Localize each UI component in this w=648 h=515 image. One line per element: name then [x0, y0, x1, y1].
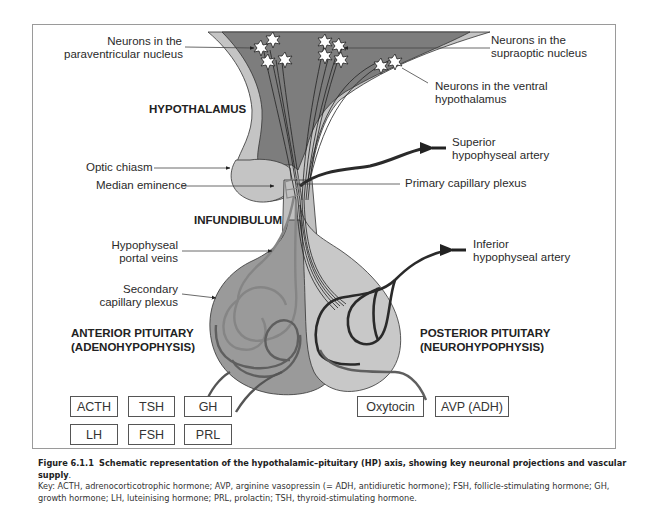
hormone-box-acth: ACTH — [70, 396, 118, 417]
label-ventral: Neurons in the ventral hypothalamus — [435, 80, 548, 106]
figure-caption: Figure 6.1.1 Schematic representation of… — [38, 458, 638, 504]
label-inferior-artery-line2: hypophyseal artery — [473, 251, 570, 264]
caption-key: Key: ACTH, adrenocorticotrophic hormone;… — [38, 481, 638, 504]
optic-chiasm — [231, 159, 292, 202]
label-ventral-line1: Neurons in the ventral — [435, 80, 548, 93]
label-secondary-plexus: Secondary capillary plexus — [80, 283, 178, 309]
label-superior-artery-line1: Superior — [452, 136, 549, 149]
label-supraoptic-line1: Neurons in the — [491, 34, 587, 47]
region-infundibulum: INFUNDIBULUM — [194, 213, 282, 227]
region-anterior-line1: ANTERIOR PITUITARY — [71, 326, 195, 340]
label-portal-veins-line1: Hypophyseal — [80, 239, 178, 252]
region-posterior-line2: (NEUROHYPOPHYSIS) — [420, 340, 550, 354]
label-secondary-plexus-line2: capillary plexus — [80, 296, 178, 309]
label-secondary-plexus-line1: Secondary — [80, 283, 178, 296]
region-hypothalamus: HYPOTHALAMUS — [149, 102, 246, 116]
label-paraventricular-line2: paraventricular nucleus — [64, 48, 182, 61]
region-posterior-pituitary: POSTERIOR PITUITARY (NEUROHYPOPHYSIS) — [420, 326, 550, 354]
label-supraoptic-line2: supraoptic nucleus — [491, 47, 587, 60]
caption-title-line: Figure 6.1.1 Schematic representation of… — [38, 458, 638, 481]
label-portal-veins: Hypophyseal portal veins — [80, 239, 178, 265]
label-superior-artery: Superior hypophyseal artery — [452, 136, 549, 162]
hormone-box-gh: GH — [184, 396, 232, 417]
hormone-box-oxytocin: Oxytocin — [357, 396, 424, 417]
label-optic-chiasm: Optic chiasm — [86, 161, 152, 174]
hormone-box-fsh: FSH — [128, 424, 175, 445]
label-inferior-artery-line1: Inferior — [473, 238, 570, 251]
label-inferior-artery: Inferior hypophyseal artery — [473, 238, 570, 264]
label-supraoptic: Neurons in the supraoptic nucleus — [491, 34, 587, 60]
label-superior-artery-line2: hypophyseal artery — [452, 149, 549, 162]
hormone-box-avp: AVP (ADH) — [435, 396, 509, 417]
hormone-box-tsh: TSH — [128, 396, 175, 417]
label-paraventricular-line1: Neurons in the — [64, 35, 182, 48]
caption-figure-number: Figure 6.1.1 — [38, 458, 94, 468]
hormone-box-prl: PRL — [184, 424, 232, 445]
label-portal-veins-line2: portal veins — [80, 252, 178, 265]
region-posterior-line1: POSTERIOR PITUITARY — [420, 326, 550, 340]
caption-title: Schematic representation of the hypothal… — [38, 458, 626, 480]
label-paraventricular: Neurons in the paraventricular nucleus — [64, 35, 182, 61]
region-anterior-pituitary: ANTERIOR PITUITARY (ADENOHYPOPHYSIS) — [71, 326, 195, 354]
label-primary-plexus: Primary capillary plexus — [405, 177, 526, 190]
label-median-eminence: Median eminence — [96, 179, 187, 192]
hormone-box-lh: LH — [70, 424, 118, 445]
region-anterior-line2: (ADENOHYPOPHYSIS) — [71, 340, 195, 354]
label-ventral-line2: hypothalamus — [435, 93, 548, 106]
